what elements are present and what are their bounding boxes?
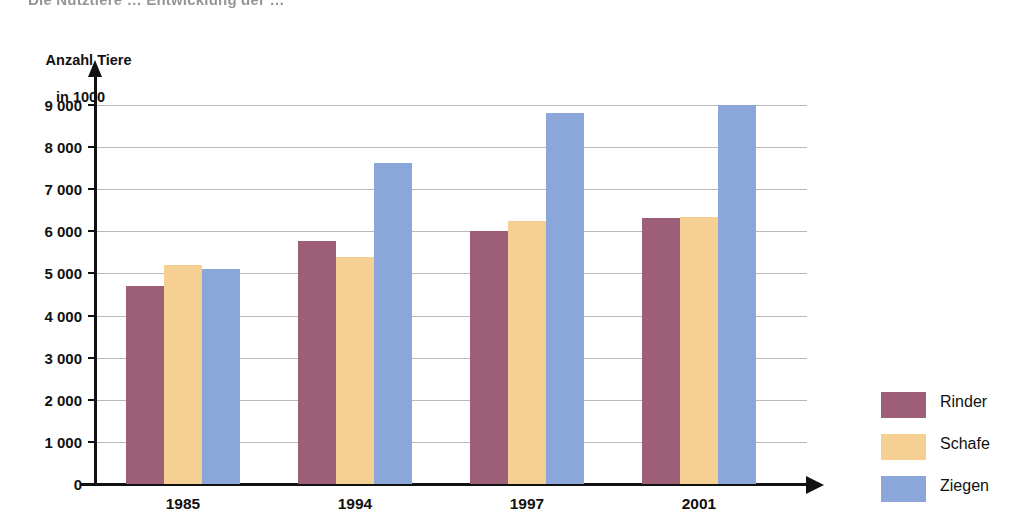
y-tick-label: 5 000 [8, 265, 82, 282]
y-tick-label: 7 000 [8, 181, 82, 198]
y-tick-label: 9 000 [8, 97, 82, 114]
gridline [97, 147, 807, 148]
y-tick-mark [88, 357, 97, 359]
x-axis-label-1985: 1985 [113, 495, 253, 513]
y-tick-label: 8 000 [8, 139, 82, 156]
legend-label: Schafe [940, 435, 990, 453]
bar-rinder-2001 [642, 218, 680, 484]
legend-label: Rinder [940, 393, 987, 411]
bar-ziegen-2001 [718, 105, 756, 484]
gridline [97, 189, 807, 190]
y-tick-label: 1 000 [8, 433, 82, 450]
bar-ziegen-1997 [546, 113, 584, 484]
bar-rinder-1994 [298, 241, 336, 484]
bar-schafe-1994 [336, 257, 374, 484]
bar-schafe-2001 [680, 217, 718, 484]
y-tick-mark [88, 104, 97, 106]
bar-schafe-1997 [508, 221, 546, 484]
y-tick-mark [88, 230, 97, 232]
y-tick-label: 4 000 [8, 307, 82, 324]
y-axis-title: Anzahl Tiere in 1000 [30, 32, 132, 143]
y-tick-label: 6 000 [8, 223, 82, 240]
bar-schafe-1985 [164, 265, 202, 484]
bar-rinder-1985 [126, 286, 164, 484]
x-axis-arrow-icon [806, 476, 824, 494]
y-tick-mark [88, 399, 97, 401]
y-tick-mark [88, 315, 97, 317]
legend-swatch-ziegen-icon [881, 476, 926, 502]
y-axis-line [94, 74, 97, 486]
y-tick-label: 0 [8, 476, 82, 493]
cutoff-headline: Die Nutztiere … Entwicklung der … [28, 0, 285, 8]
y-tick-label: 3 000 [8, 349, 82, 366]
x-axis-label-2001: 2001 [629, 495, 769, 513]
x-axis-label-1994: 1994 [285, 495, 425, 513]
legend-swatch-schafe-icon [881, 434, 926, 460]
y-tick-mark [88, 483, 97, 485]
bar-rinder-1997 [470, 231, 508, 484]
y-tick-label: 2 000 [8, 391, 82, 408]
y-axis-arrow-icon [88, 60, 102, 77]
bar-ziegen-1985 [202, 269, 240, 484]
y-tick-mark [88, 441, 97, 443]
gridline [97, 105, 807, 106]
bar-chart: Die Nutztiere … Entwicklung der … Anzahl… [0, 0, 1014, 532]
x-axis-label-1997: 1997 [457, 495, 597, 513]
legend-swatch-rinder-icon [881, 392, 926, 418]
bar-ziegen-1994 [374, 163, 412, 484]
y-tick-mark [88, 272, 97, 274]
legend-label: Ziegen [940, 477, 989, 495]
y-tick-mark [88, 188, 97, 190]
y-tick-mark [88, 146, 97, 148]
